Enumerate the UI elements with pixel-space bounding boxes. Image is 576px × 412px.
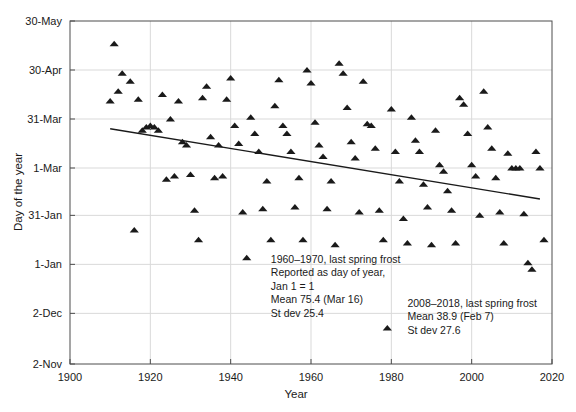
y-tick-label: 30-Apr xyxy=(29,64,62,76)
data-point xyxy=(170,173,179,179)
data-point xyxy=(294,175,303,181)
data-point xyxy=(347,139,356,145)
data-point xyxy=(186,171,195,177)
data-point xyxy=(266,237,275,243)
data-point xyxy=(391,149,400,155)
data-point xyxy=(519,211,528,217)
data-point xyxy=(274,77,283,83)
data-point xyxy=(262,178,271,184)
data-point xyxy=(110,41,119,47)
data-point xyxy=(415,149,424,155)
data-point xyxy=(387,106,396,112)
data-point xyxy=(435,162,444,168)
data-point xyxy=(451,240,460,246)
data-point xyxy=(427,242,436,248)
data-point xyxy=(114,88,123,94)
data-point xyxy=(399,216,408,222)
x-tick-label: 1940 xyxy=(218,371,242,383)
data-point xyxy=(331,242,340,248)
data-point xyxy=(282,131,291,137)
data-point xyxy=(218,173,227,179)
data-point xyxy=(318,153,327,159)
data-point xyxy=(383,325,392,331)
data-point xyxy=(503,150,512,156)
data-point xyxy=(423,204,432,210)
data-point xyxy=(226,75,235,81)
trend-line-segment xyxy=(110,129,540,199)
data-point xyxy=(471,173,480,179)
data-point xyxy=(194,237,203,243)
x-tick-label: 1960 xyxy=(299,371,323,383)
data-point xyxy=(270,103,279,109)
data-point xyxy=(459,101,468,107)
data-point xyxy=(126,78,135,84)
y-tick-label: 1-Jan xyxy=(34,258,62,270)
data-point xyxy=(371,145,380,151)
data-point xyxy=(118,70,127,76)
data-point xyxy=(487,145,496,151)
data-point xyxy=(162,176,171,182)
data-point xyxy=(335,60,344,66)
data-point xyxy=(467,162,476,168)
data-point xyxy=(431,127,440,132)
data-point xyxy=(395,178,404,184)
data-point xyxy=(531,149,540,155)
data-point xyxy=(246,114,255,120)
data-point xyxy=(463,131,472,137)
data-point xyxy=(455,95,464,101)
x-tick-label: 1900 xyxy=(58,371,82,383)
x-tick-label: 2020 xyxy=(540,371,564,383)
data-point xyxy=(351,155,360,161)
data-point xyxy=(411,137,420,143)
data-point xyxy=(495,209,504,215)
y-tick-label: 31-Jan xyxy=(28,209,62,221)
data-point xyxy=(298,237,307,243)
y-tick-label: 31-Mar xyxy=(27,113,62,125)
y-tick-label: 1-Mar xyxy=(33,162,62,174)
data-point xyxy=(310,119,319,125)
data-point xyxy=(174,98,183,104)
data-point xyxy=(499,240,508,246)
y-axis-ticks: 30-May30-Apr31-Mar1-Mar31-Jan1-Jan2-Dec2… xyxy=(25,15,75,370)
y-tick-label: 30-May xyxy=(25,15,62,27)
data-point xyxy=(419,181,428,187)
scatter-chart: 30-May30-Apr31-Mar1-Mar31-Jan1-Jan2-Dec2… xyxy=(0,0,576,412)
data-point xyxy=(407,114,416,120)
data-point xyxy=(286,149,295,155)
data-point xyxy=(403,240,412,246)
data-point xyxy=(158,91,167,97)
data-points xyxy=(106,41,549,331)
y-tick-label: 2-Nov xyxy=(33,358,63,370)
data-point xyxy=(379,237,388,243)
data-point xyxy=(242,255,251,261)
data-point xyxy=(306,80,315,86)
data-point xyxy=(190,207,199,213)
data-point xyxy=(258,206,267,212)
figure: 30-May30-Apr31-Mar1-Mar31-Jan1-Jan2-Dec2… xyxy=(0,0,576,412)
data-point xyxy=(238,209,247,215)
data-point xyxy=(375,207,384,213)
data-point xyxy=(359,78,368,84)
data-point xyxy=(222,96,231,102)
trend-line xyxy=(110,129,540,199)
data-point xyxy=(491,175,500,181)
data-point xyxy=(527,266,536,272)
data-point xyxy=(130,227,139,233)
data-point xyxy=(278,122,287,128)
data-point xyxy=(443,188,452,194)
y-tick-label: 2-Dec xyxy=(33,307,63,319)
data-point xyxy=(523,260,532,266)
data-point xyxy=(439,168,448,174)
data-point xyxy=(479,88,488,94)
data-point xyxy=(314,142,323,148)
data-point xyxy=(447,207,456,213)
data-point xyxy=(290,204,299,210)
data-point xyxy=(326,178,335,184)
data-point xyxy=(134,96,143,102)
data-point xyxy=(339,70,348,76)
x-tick-label: 1920 xyxy=(138,371,162,383)
data-point xyxy=(483,124,492,130)
data-point xyxy=(106,98,115,104)
data-point xyxy=(210,175,219,181)
data-point xyxy=(539,237,548,243)
